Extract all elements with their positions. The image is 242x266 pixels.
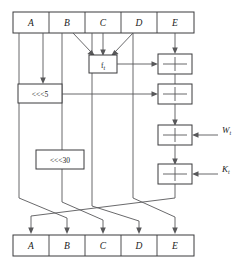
figure-canvas: A B C D E ft <<<5 xyxy=(0,0,242,266)
sha1-round-diagram: A B C D E ft <<<5 xyxy=(0,0,242,266)
arrowhead-out-e xyxy=(172,228,178,235)
input-register-cell-b: B xyxy=(64,18,70,28)
output-state-register: A B C D E xyxy=(13,235,194,256)
input-register-cell-c: C xyxy=(100,18,107,28)
input-register-cell-a: A xyxy=(27,18,34,28)
wire-d-to-f xyxy=(115,33,133,52)
rotate-left-30-box: <<<30 xyxy=(36,150,84,169)
output-register-cell-b: B xyxy=(64,241,70,251)
adder-4 xyxy=(158,164,192,184)
input-state-register: A B C D E xyxy=(13,12,194,33)
adder-2 xyxy=(158,84,192,104)
arrowhead-a-to-rot5 xyxy=(40,78,46,85)
arrowhead-rot5-to-adder2 xyxy=(152,91,159,97)
input-register-cell-d: D xyxy=(135,18,143,28)
word-input-label: Wt xyxy=(222,125,232,136)
wire-b-to-f xyxy=(73,33,91,52)
adder-3 xyxy=(158,125,192,145)
rotate-left-30-label: <<<30 xyxy=(50,156,70,165)
arrowhead-e-to-adder1 xyxy=(172,48,178,55)
input-register-cell-e: E xyxy=(171,18,178,28)
arrowhead-out-d xyxy=(136,228,142,235)
arrowhead-wt-to-adder3 xyxy=(192,132,199,138)
arrowhead-f-to-adder1 xyxy=(152,61,159,67)
adder-1 xyxy=(158,54,192,74)
output-register-cell-a: A xyxy=(27,241,34,251)
round-function-box: ft xyxy=(89,55,117,73)
output-register-cell-d: D xyxy=(135,241,143,251)
output-register-cell-e: E xyxy=(171,241,178,251)
arrowhead-out-b xyxy=(64,228,70,235)
wire-crossover-c xyxy=(92,195,139,228)
arrowhead-out-c xyxy=(100,228,106,235)
wire-crossover-a xyxy=(19,195,67,228)
constant-input-label: Kt xyxy=(221,164,230,175)
rotate-left-5-label: <<<5 xyxy=(32,90,49,99)
rotate-left-5-box: <<<5 xyxy=(18,84,62,103)
arrowhead-out-a xyxy=(28,228,34,235)
arrowhead-kt-to-adder4 xyxy=(192,171,199,177)
output-register-cell-c: C xyxy=(100,241,107,251)
